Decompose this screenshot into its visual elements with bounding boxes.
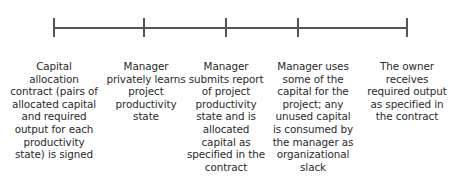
label-line: and required: [4, 110, 104, 123]
label-line: allocated: [180, 123, 272, 136]
label-line: allocation: [4, 73, 104, 86]
event-label-manager-uses-capital: Manager uses some of the capital for the…: [270, 60, 356, 173]
timeline-tick-4: [297, 18, 299, 37]
label-line: as specified in: [364, 98, 450, 111]
label-line: The owner: [364, 60, 450, 73]
label-line: the manager as: [270, 136, 356, 149]
label-line: unused capital: [270, 110, 356, 123]
label-line: the contract: [364, 110, 450, 123]
label-line: Manager uses: [270, 60, 356, 73]
label-line: is consumed by: [270, 123, 356, 136]
label-line: required output: [364, 85, 450, 98]
label-line: state) is signed: [4, 148, 104, 161]
timeline-tick-2: [143, 18, 145, 37]
label-line: allocated capital: [4, 98, 104, 111]
event-label-owner-receives: The owner receives required output as sp…: [364, 60, 450, 123]
label-line: productivity: [180, 98, 272, 111]
timeline: [0, 0, 452, 50]
label-line: some of the: [270, 73, 356, 86]
label-line: productivity: [100, 98, 192, 111]
label-line: specified in the: [180, 148, 272, 161]
event-label-contract-signed: Capital allocation contract (pairs of al…: [4, 60, 104, 161]
label-line: privately learns: [100, 73, 192, 86]
label-line: project: [100, 85, 192, 98]
label-line: organizational: [270, 148, 356, 161]
label-line: contract (pairs of: [4, 85, 104, 98]
label-line: of project: [180, 85, 272, 98]
label-line: Manager: [100, 60, 192, 73]
label-line: project; any: [270, 98, 356, 111]
event-label-manager-learns: Manager privately learns project product…: [100, 60, 192, 123]
label-line: Manager: [180, 60, 272, 73]
label-line: Capital: [4, 60, 104, 73]
label-line: capital as: [180, 136, 272, 149]
label-line: state and is: [180, 110, 272, 123]
timeline-tick-3: [225, 18, 227, 37]
label-line: output for each: [4, 123, 104, 136]
label-line: capital for the: [270, 85, 356, 98]
label-line: productivity: [4, 136, 104, 149]
timeline-tick-5: [406, 18, 408, 37]
label-line: state: [100, 110, 192, 123]
event-label-manager-reports: Manager submits report of project produc…: [180, 60, 272, 173]
label-line: submits report: [180, 73, 272, 86]
label-line: contract: [180, 161, 272, 174]
timeline-tick-1: [53, 18, 55, 37]
label-line: receives: [364, 73, 450, 86]
timeline-axis-line: [54, 27, 407, 29]
label-line: slack: [270, 161, 356, 174]
